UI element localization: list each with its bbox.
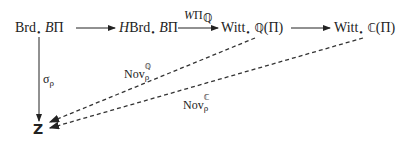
label-w-pi-q: WΠℚ (184, 8, 212, 25)
b-text: B (45, 20, 54, 35)
node-brd-b-pi: Brd• BΠ (15, 20, 64, 41)
rho-subscript: ρ (49, 78, 54, 88)
bullet-subscript: • (246, 27, 250, 38)
bullet-subscript: • (359, 27, 363, 38)
rationals-symbol: ℚ (254, 21, 263, 35)
witt-text: Witt (334, 20, 358, 35)
node-z: Z (33, 121, 43, 137)
pi-paren-text: (Π) (264, 20, 283, 35)
rho-subscript: ρ (145, 70, 150, 84)
h-text: H (119, 20, 129, 35)
label-nov-c: Novℂρ (183, 97, 212, 112)
w-text: W (184, 8, 194, 22)
pi-paren-text: (Π) (376, 20, 395, 35)
pi-text: Π (54, 20, 64, 35)
label-sigma-rho: σρ (43, 72, 54, 90)
pi-text: Π (168, 20, 178, 35)
label-nov-q: Novℚρ (124, 66, 153, 81)
witt-text: Witt (221, 20, 245, 35)
node-witt-c-pi: Witt• ℂ(Π) (334, 20, 395, 41)
rho-subscript: ρ (204, 101, 209, 115)
node-witt-q-pi: Witt• ℚ(Π) (221, 20, 283, 41)
brd-text: Brd (129, 20, 150, 35)
integers-symbol: Z (33, 121, 43, 137)
b-text: B (159, 20, 168, 35)
nov-text: Nov (183, 98, 204, 112)
nov-text: Nov (124, 67, 145, 81)
pi-text: Π (194, 8, 203, 22)
complex-symbol: ℂ (367, 21, 375, 35)
bullet-subscript: • (151, 27, 155, 38)
node-hbrd-b-pi: HBrd• BΠ (119, 20, 178, 41)
bullet-subscript: • (37, 27, 41, 38)
rationals-subscript: ℚ (203, 11, 212, 25)
brd-text: Brd (15, 20, 36, 35)
